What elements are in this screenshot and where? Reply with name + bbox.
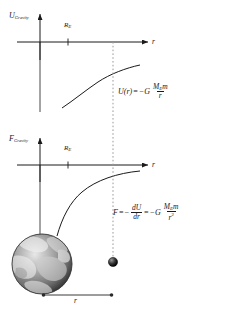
- fe-d-numerator: dU: [130, 204, 143, 212]
- upper-y-axis-subscript: Gravity: [15, 15, 29, 20]
- ue-numerator: MEm: [151, 83, 170, 91]
- distance-arrow-label: r: [74, 297, 77, 305]
- fe-numerator: MEm: [162, 203, 181, 211]
- fe-equals-1: =: [119, 208, 124, 217]
- lower-panel-axes: [17, 138, 148, 238]
- potential-energy-equation: U(r) = −G MEm r: [118, 83, 170, 100]
- ue-equals: =: [133, 87, 138, 96]
- upper-tick-label: RE: [64, 22, 71, 29]
- upper-x-axis-label: r: [152, 38, 155, 46]
- lower-tick-label: RE: [64, 145, 71, 152]
- lower-y-axis-subscript: Gravity: [14, 138, 28, 143]
- fe-derivative-fraction: dU dr: [130, 204, 143, 221]
- lower-y-axis-label: FGravity: [9, 135, 28, 143]
- upper-y-axis-label: UGravity: [9, 12, 29, 20]
- ue-fraction: MEm r: [151, 83, 170, 100]
- lower-x-axis-label: r: [152, 161, 155, 169]
- fe-constant: −G: [150, 208, 161, 217]
- fe-denominator: r2: [167, 211, 176, 221]
- ue-constant: −G: [139, 87, 150, 96]
- diagram-vector-layer: [0, 0, 227, 312]
- ue-lhs: U(r): [118, 87, 132, 96]
- fe-d-denominator: dr: [131, 212, 142, 221]
- fe-lhs: F: [113, 208, 118, 217]
- fe-minus: −: [124, 208, 129, 217]
- fe-fraction: MEm r2: [162, 203, 181, 222]
- distance-arrow: [42, 293, 114, 297]
- earth-sphere: [10, 234, 72, 295]
- point-mass: [108, 257, 117, 266]
- fe-equals-2: =: [144, 208, 149, 217]
- gravity-diagram: UGravity RE r U(r) = −G MEm r FGravity R…: [0, 0, 227, 312]
- ue-denominator: r: [157, 91, 164, 100]
- force-equation: F = − dU dr = −G MEm r2: [113, 203, 181, 222]
